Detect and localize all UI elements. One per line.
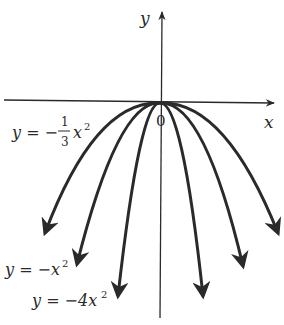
svg-text:2: 2 — [101, 289, 107, 300]
svg-text:y = −x: y = −x — [4, 260, 60, 279]
svg-text:2: 2 — [84, 121, 90, 132]
x-axis-label: x — [264, 112, 274, 132]
svg-text:y = −4x: y = −4x — [31, 291, 97, 310]
svg-text:2: 2 — [62, 258, 68, 269]
label-neg-four: y = −4x 2 — [31, 289, 107, 310]
y-axis-label: y — [139, 8, 150, 28]
x-axis — [4, 100, 274, 103]
svg-text:1: 1 — [61, 115, 69, 129]
origin-label: 0 — [156, 112, 166, 130]
label-neg-third: y = − 1 3 x 2 — [11, 115, 90, 149]
svg-text:3: 3 — [61, 135, 69, 149]
y-axis — [160, 12, 162, 318]
parabola-family-diagram: y x 0 y = − 1 3 x 2 y = −x 2 y = −4x 2 — [0, 0, 284, 325]
svg-text:y = −: y = − — [11, 123, 58, 142]
svg-text:x: x — [73, 123, 82, 142]
label-neg-one: y = −x 2 — [4, 258, 68, 279]
